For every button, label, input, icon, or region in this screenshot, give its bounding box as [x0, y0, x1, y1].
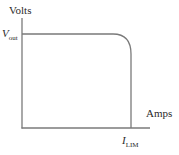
- vi-curve: [22, 34, 131, 128]
- ilim-tick-label: ILIM: [122, 135, 139, 146]
- x-axis-label: Amps: [146, 108, 172, 119]
- vout-sub: out: [9, 34, 18, 42]
- y-axis-label: Volts: [9, 5, 31, 16]
- vout-main: V: [2, 27, 9, 39]
- ilim-sub: LIM: [126, 141, 139, 149]
- chart-plot: [0, 0, 179, 155]
- vout-tick-label: Vout: [2, 28, 18, 39]
